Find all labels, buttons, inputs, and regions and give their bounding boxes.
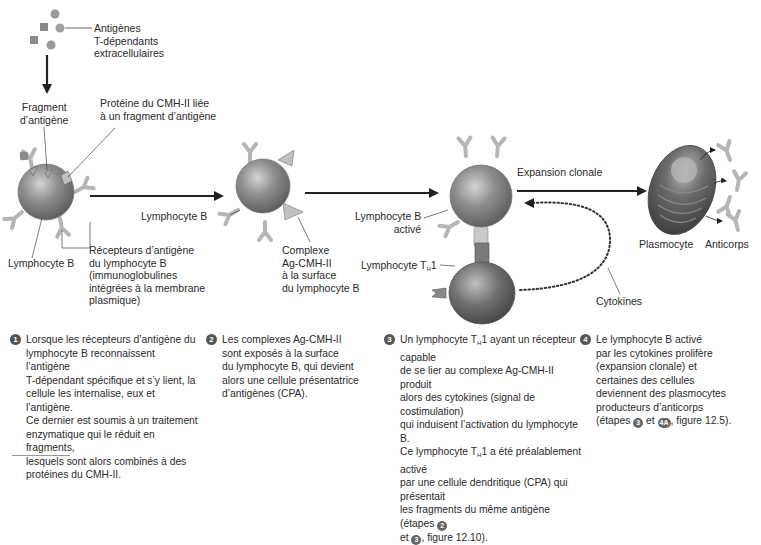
- plasmocyte-icon: [636, 136, 728, 244]
- step-4-text: Le lymphocyte B activé par les cytokines…: [596, 333, 731, 428]
- step-3-line5-prefix: Ce lymphocyte T: [400, 446, 477, 457]
- label-lymphocyte-th1: Lymphocyte TH1: [361, 259, 437, 276]
- activated-b-lymphocyte-icon: [424, 138, 512, 248]
- footer-rule: [12, 455, 70, 456]
- label-antibodies: Anticorps: [705, 238, 749, 251]
- step-2-text: Les complexes Ag-CMH-II sont exposés à l…: [222, 333, 359, 401]
- step-3-line1-prefix: Un lymphocyte T: [400, 334, 477, 345]
- antigen-particles-icon: [30, 10, 92, 50]
- cytokines-dotted-arrow: [520, 202, 610, 290]
- th1-suffix: 1: [431, 259, 437, 271]
- ref-prefix: (étapes: [596, 415, 630, 426]
- th1-lymphocyte-icon: [432, 243, 515, 324]
- step-number-badge: 2: [206, 334, 217, 345]
- label-lymphocyte-b-1: Lymphocyte B: [8, 257, 74, 270]
- step-3-text: Un lymphocyte TH1 ayant un récepteur cap…: [400, 333, 584, 545]
- label-complex: Complexe Ag-CMH-II à la surface du lymph…: [282, 244, 360, 294]
- label-lymphocyte-b-2: Lymphocyte B: [141, 210, 207, 223]
- label-antigen-fragment: Fragment d’antigène: [20, 101, 68, 126]
- step-3-mid: de se lier au complexe Ag-CMH-II produit…: [400, 365, 578, 444]
- label-lymphocyte-b-activated: Lymphocyte B activé: [355, 210, 421, 235]
- ref-join: et: [646, 415, 655, 426]
- cytokines-arrowhead: [524, 198, 534, 208]
- step-ref-badge: 3: [633, 418, 643, 428]
- ref-tail: , figure 12.5).: [671, 415, 732, 426]
- label-clonal-expansion: Expansion clonale: [517, 166, 602, 179]
- ref-tail: , figure 12.10).: [421, 532, 487, 543]
- ref-join: et: [400, 532, 409, 543]
- label-antigens: Antigènes T-dépendants extracellulaires: [94, 22, 164, 60]
- step-4-body: Le lymphocyte B activé par les cytokines…: [596, 334, 726, 413]
- label-receptors: Récepteurs d’antigène du lymphocyte B (i…: [89, 244, 205, 307]
- label-mhc-protein: Protéine du CMH-II liée à un fragment d’…: [100, 97, 216, 122]
- step-3-end: par une cellule dendritique (CPA) qui pr…: [400, 477, 568, 529]
- step-ref-badge: 3: [411, 535, 421, 545]
- step-number-badge: 1: [10, 334, 21, 345]
- b-lymphocyte-cell-2-icon: [219, 144, 310, 242]
- step-1-text: Lorsque les récepteurs d’antigène du lym…: [26, 333, 200, 482]
- step-number-badge: 3: [384, 334, 395, 345]
- label-plasmocyte: Plasmocyte: [639, 238, 693, 251]
- step-ref-badge: 2: [437, 521, 447, 531]
- b-lymphocyte-cell-1-icon: [4, 127, 115, 258]
- step-ref-badge: 4A: [658, 418, 671, 428]
- label-cytokines: Cytokines: [596, 295, 642, 308]
- step-number-badge: 4: [580, 334, 591, 345]
- th1-prefix: Lymphocyte T: [361, 259, 426, 271]
